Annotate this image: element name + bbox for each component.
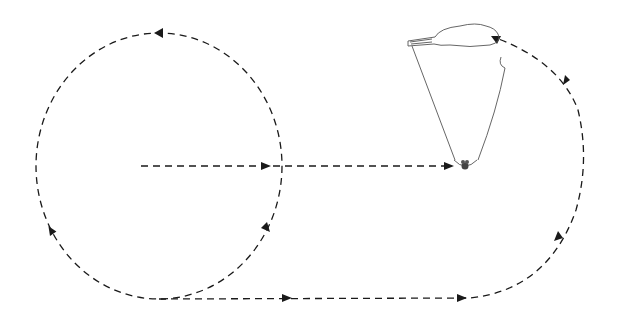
- flight-path-diagram: [0, 0, 621, 319]
- arrow-icon: [444, 162, 454, 170]
- arrow-icon: [46, 28, 270, 237]
- diagram-canvas: [0, 0, 621, 319]
- arrow-icon: [282, 36, 570, 302]
- canopy-figure: [408, 24, 505, 160]
- arrow-icon: [261, 162, 271, 170]
- bottom-return-path: [159, 38, 584, 299]
- pilot-figure: [454, 160, 477, 170]
